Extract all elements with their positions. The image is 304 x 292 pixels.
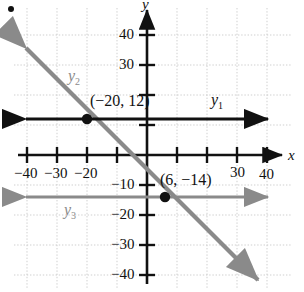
series-label-y1-sub: 1 xyxy=(218,100,223,111)
point-label-a: (−20, 12) xyxy=(90,93,150,109)
series-label-y1: y1 xyxy=(211,92,223,111)
series-label-y3: y3 xyxy=(64,202,76,221)
point-marker-a xyxy=(82,114,92,124)
y-tick-label-neg10: −10 xyxy=(111,177,134,192)
x-axis-label: x xyxy=(288,148,295,163)
x-tick-label-pos40: 40 xyxy=(259,167,274,182)
series-label-y2: y2 xyxy=(68,68,80,87)
y-tick-label-pos30: 30 xyxy=(119,57,134,72)
x-tick-label-neg30: −30 xyxy=(44,166,67,181)
y-tick-label-neg40: −40 xyxy=(111,267,134,282)
x-tick-label-pos30: 30 xyxy=(230,165,245,180)
x-tick-label-neg20: −20 xyxy=(74,166,97,181)
y-tick-label-neg30: −30 xyxy=(111,237,134,252)
x-tick-label-neg40: −40 xyxy=(14,166,37,181)
y-tick-label-neg20: −20 xyxy=(111,207,134,222)
y-tick-label-pos40: 40 xyxy=(119,27,134,42)
figure-canvas: x y −40 −30 −20 30 40 40 30 −10 −20 −30 … xyxy=(0,0,304,292)
point-marker-b xyxy=(160,192,170,202)
y-axis-label: y xyxy=(142,0,149,12)
series-label-y2-sub: 2 xyxy=(75,76,80,87)
series-label-y3-sub: 3 xyxy=(71,210,76,221)
coordinate-plane-svg xyxy=(0,0,304,292)
point-label-b: (6, −14) xyxy=(160,172,212,188)
